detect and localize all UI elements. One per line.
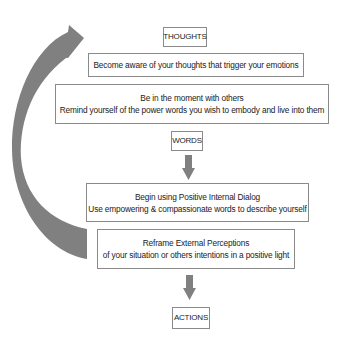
thoughts-words-actions-diagram: THOUGHTS Become aware of your thoughts t… <box>0 0 349 346</box>
stage-actions-label: ACTIONS <box>174 312 208 324</box>
stage-actions: ACTIONS <box>172 307 210 329</box>
down-arrow-icon <box>0 0 349 346</box>
